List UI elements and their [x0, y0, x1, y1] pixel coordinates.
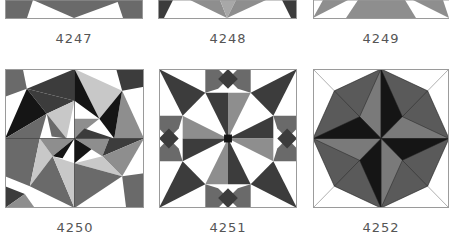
quilt-block-4249	[313, 0, 449, 19]
quilt-block-4251	[159, 69, 297, 208]
quilt-block-4250-graphic	[5, 69, 144, 208]
quilt-block-4247-graphic	[5, 0, 143, 19]
quilt-block-4252	[313, 69, 449, 208]
quilt-block-4251-graphic	[159, 69, 297, 208]
quilt-block-4249-graphic	[313, 0, 449, 19]
quilt-block-4248-graphic	[158, 0, 297, 19]
block-label-4250: 4250	[0, 220, 150, 235]
block-label-4247: 4247	[0, 31, 149, 46]
quilt-block-4250	[5, 69, 144, 208]
block-label-4252: 4252	[306, 220, 449, 235]
block-label-4249: 4249	[306, 31, 449, 46]
quilt-block-4252-graphic	[313, 69, 449, 208]
block-label-4251: 4251	[153, 220, 303, 235]
quilt-block-4247	[5, 0, 143, 19]
quilt-block-4248	[158, 0, 297, 19]
block-label-4248: 4248	[153, 31, 303, 46]
